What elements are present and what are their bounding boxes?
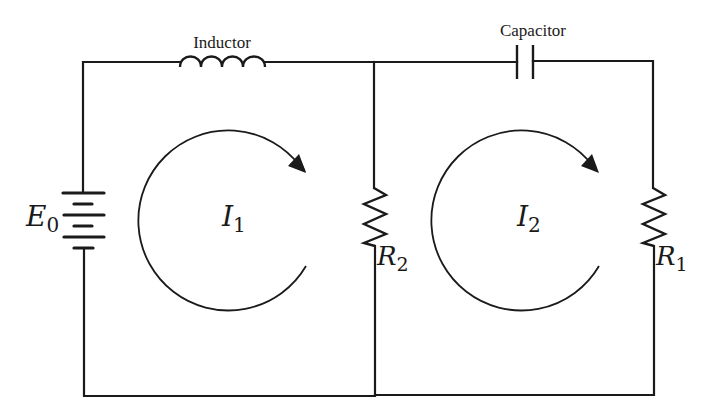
circuit-diagram: E0 Inductor Capacitor R2 R1 I1 I2 [0,0,718,419]
capacitor-label: Capacitor [500,21,566,40]
resistor-r2-label: R2 [376,241,409,275]
wire-bottom-left [84,248,375,396]
capacitor-icon [517,45,533,79]
wire-bottom-right [375,246,654,395]
resistor-r2-icon [364,188,386,246]
battery-icon [63,193,104,248]
resistor-r1-label: R1 [655,241,688,275]
wire-top-left [83,62,180,193]
loop-current-1-label: I1 [221,200,246,237]
source-label: E0 [25,200,59,237]
inductor-icon [180,57,265,68]
wires [83,61,654,396]
loop-current-2-arrow-icon [431,130,599,310]
loop-current-2-label: I2 [516,200,541,237]
inductor-label: Inductor [193,33,251,52]
resistor-r1-icon [643,188,665,246]
